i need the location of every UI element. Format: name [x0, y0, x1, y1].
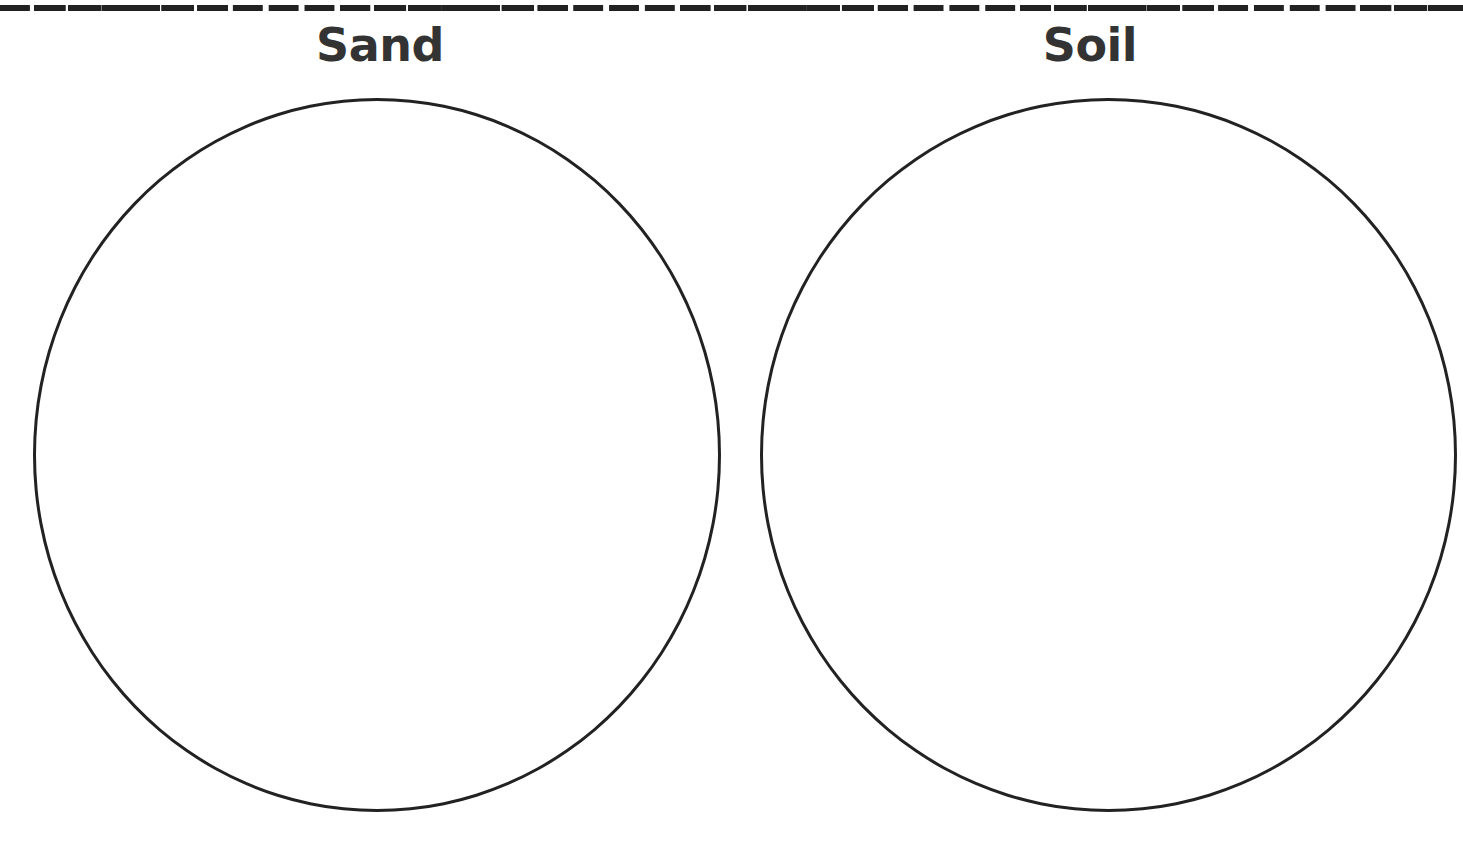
- dashed-cut-line: [0, 5, 1463, 11]
- soil-heading: Soil: [990, 18, 1190, 72]
- sand-circle: [33, 98, 721, 812]
- soil-circle: [760, 98, 1457, 812]
- sand-heading: Sand: [280, 18, 480, 72]
